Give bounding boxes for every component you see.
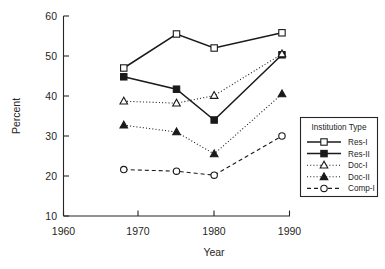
data-point-open-triangle	[120, 97, 128, 104]
legend-label-res-i: Res-I	[348, 138, 368, 147]
legend-label-res-ii: Res-II	[348, 150, 370, 159]
series-line-doc-ii	[124, 94, 282, 154]
data-point-filled-triangle	[210, 150, 218, 157]
data-point-filled-triangle	[173, 128, 181, 135]
line-chart-svg: 60 50 40 30 20 10 1960 1970 1980 1990 Ye…	[0, 0, 385, 269]
series-res-ii	[121, 52, 286, 124]
data-point-filled-triangle	[120, 121, 128, 128]
y-tick-label-10: 10	[45, 210, 57, 222]
data-point-open-square	[279, 30, 285, 36]
data-point-open-circle	[121, 166, 127, 172]
data-point-open-triangle	[173, 99, 181, 106]
x-axis-ticks	[64, 211, 290, 217]
y-tick-label-50: 50	[45, 50, 57, 62]
chart-figure: 60 50 40 30 20 10 1960 1970 1980 1990 Ye…	[0, 0, 385, 269]
data-point-open-square	[173, 31, 179, 37]
data-point-filled-square	[121, 74, 127, 80]
legend-label-doc-ii: Doc-II	[348, 173, 370, 182]
series-comp-i	[121, 133, 286, 179]
series-line-res-i	[124, 33, 282, 68]
legend: Institution Type Res-IRes-IIDoc-IDoc-IIC…	[301, 118, 378, 197]
series-layer	[120, 30, 286, 179]
data-point-open-circle	[211, 172, 217, 178]
data-point-open-square	[121, 65, 127, 71]
data-point-filled-square	[321, 150, 327, 156]
legend-label-comp-i: Comp-I	[348, 184, 375, 193]
data-point-open-circle	[173, 168, 179, 174]
legend-label-doc-i: Doc-I	[348, 161, 368, 170]
series-doc-i	[120, 50, 286, 106]
y-tick-label-60: 60	[45, 10, 57, 22]
series-line-res-ii	[124, 55, 282, 120]
x-tick-label-1990: 1990	[278, 225, 302, 237]
data-point-open-circle	[279, 133, 285, 139]
legend-title: Institution Type	[312, 123, 367, 132]
data-point-filled-triangle	[278, 90, 286, 97]
data-point-open-circle	[321, 185, 327, 191]
x-axis-title: Year	[203, 246, 225, 258]
y-axis-ticks	[64, 16, 70, 216]
x-tick-label-1970: 1970	[126, 225, 150, 237]
data-point-open-triangle	[210, 92, 218, 99]
data-point-filled-square	[211, 117, 217, 123]
x-tick-label-1980: 1980	[202, 225, 226, 237]
y-tick-label-20: 20	[45, 170, 57, 182]
y-axis-title: Percent	[10, 98, 22, 134]
page-edge-artifact	[0, 260, 200, 269]
data-point-filled-square	[173, 86, 179, 92]
series-line-comp-i	[124, 136, 282, 175]
series-res-i	[121, 30, 286, 72]
data-point-open-square	[321, 139, 327, 145]
y-tick-label-30: 30	[45, 130, 57, 142]
x-tick-label-1960: 1960	[52, 225, 76, 237]
series-doc-ii	[120, 90, 286, 157]
data-point-open-square	[211, 45, 217, 51]
y-tick-label-40: 40	[45, 90, 57, 102]
